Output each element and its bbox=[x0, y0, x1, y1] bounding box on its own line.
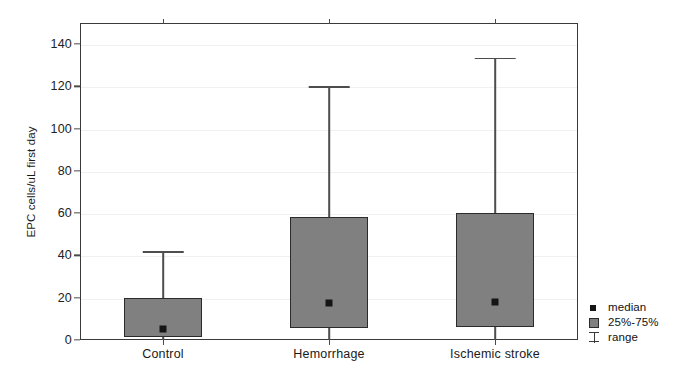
x-tick-mark-top bbox=[163, 19, 164, 24]
box-swatch-icon bbox=[588, 316, 603, 329]
median-marker bbox=[492, 298, 499, 305]
gridline bbox=[81, 45, 577, 46]
legend-label-median: median bbox=[608, 301, 646, 314]
y-axis-title: EPC cells/uL first day bbox=[25, 87, 37, 277]
x-tick-mark-top bbox=[329, 19, 330, 24]
y-tick-label: 40 bbox=[58, 248, 72, 262]
legend-item-range: range bbox=[588, 330, 659, 344]
median-marker bbox=[160, 326, 167, 333]
whisker-cap-max bbox=[475, 58, 516, 60]
median-marker bbox=[326, 300, 333, 307]
boxplot-box bbox=[290, 217, 368, 328]
x-tick-mark bbox=[495, 340, 496, 345]
legend-item-iqr: 25%-75% bbox=[588, 315, 659, 329]
boxplot-box bbox=[456, 213, 534, 327]
x-tick-mark-top bbox=[495, 19, 496, 24]
x-tick-label: Hemorrhage bbox=[293, 347, 364, 361]
chart-legend: median 25%-75% range bbox=[588, 300, 659, 345]
y-tick-label: 20 bbox=[58, 291, 72, 305]
y-tick-label: 80 bbox=[58, 164, 72, 178]
y-tick-label: 120 bbox=[51, 79, 72, 93]
legend-item-median: median bbox=[588, 300, 659, 314]
y-tick-label: 60 bbox=[58, 206, 72, 220]
median-swatch-icon bbox=[588, 301, 603, 314]
y-tick-label: 0 bbox=[65, 333, 72, 347]
range-swatch-icon bbox=[588, 331, 603, 344]
whisker-cap-max bbox=[309, 86, 350, 88]
x-tick-label: Ischemic stroke bbox=[450, 347, 540, 361]
y-tick-label: 100 bbox=[51, 122, 72, 136]
legend-label-range: range bbox=[608, 331, 638, 344]
boxplot-figure: EPC cells/uL first day 02040608010012014… bbox=[0, 0, 685, 377]
legend-label-iqr: 25%-75% bbox=[608, 316, 659, 329]
x-tick-mark bbox=[329, 340, 330, 345]
x-tick-label: Control bbox=[142, 347, 184, 361]
whisker-cap-max bbox=[143, 251, 184, 253]
x-tick-mark bbox=[163, 340, 164, 345]
y-tick-label: 140 bbox=[51, 37, 72, 51]
y-axis: EPC cells/uL first day 02040608010012014… bbox=[0, 0, 80, 377]
